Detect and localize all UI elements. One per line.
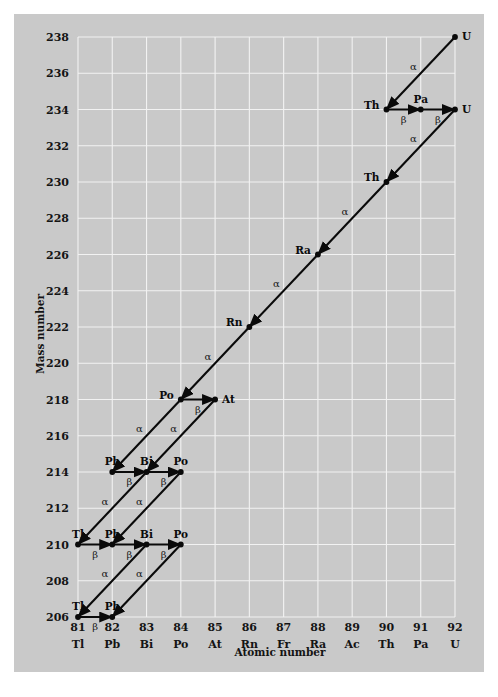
nuclide-node xyxy=(178,397,184,403)
x-axis-title: Atomic number xyxy=(234,646,326,658)
y-tick-label: 234 xyxy=(46,104,69,117)
x-tick-label: 82 xyxy=(105,621,120,634)
nuclide-node xyxy=(144,469,150,475)
x-element-symbol: Ac xyxy=(344,638,361,651)
nuclide-label: Pb xyxy=(105,528,120,540)
decay-label-beta: β xyxy=(127,476,133,487)
nuclide-label: U xyxy=(462,103,471,115)
y-axis-tick-labels: 2062082102122142162182202222242262282302… xyxy=(46,31,69,624)
nuclide-node xyxy=(452,34,458,40)
y-tick-label: 228 xyxy=(46,212,69,225)
decay-label-alpha: α xyxy=(342,206,349,217)
nuclide-label: Rn xyxy=(226,316,243,328)
nuclide-node xyxy=(75,542,81,548)
y-tick-label: 238 xyxy=(46,31,69,44)
nuclide-node xyxy=(246,324,252,330)
x-element-symbol: Pb xyxy=(104,638,120,651)
x-element-symbol: Pa xyxy=(413,638,428,651)
nuclide-node xyxy=(144,542,150,548)
nuclide-node xyxy=(384,107,390,113)
decay-label-alpha: α xyxy=(136,568,143,579)
nuclide-label: Tl xyxy=(72,600,84,612)
nuclide-label: Po xyxy=(174,528,189,540)
x-tick-label: 91 xyxy=(413,621,428,634)
x-tick-label: 83 xyxy=(139,621,154,634)
nuclide-label: Th xyxy=(364,99,380,111)
gridlines xyxy=(78,37,455,617)
nuclide-node xyxy=(315,252,321,258)
nuclide-node xyxy=(75,614,81,620)
nuclide-label: Pa xyxy=(414,93,429,105)
decay-label-alpha: α xyxy=(136,496,143,507)
nuclide-label: Po xyxy=(174,455,189,467)
nuclide-label: At xyxy=(221,393,235,405)
decay-label-beta: β xyxy=(161,476,167,487)
decay-label-beta: β xyxy=(161,549,167,560)
nuclide-node xyxy=(212,397,218,403)
decay-label-beta: β xyxy=(435,114,441,125)
nuclide-label: U xyxy=(462,30,471,42)
y-tick-label: 224 xyxy=(46,285,69,298)
x-tick-label: 92 xyxy=(447,621,462,634)
decay-series-chart: 2062082102122142162182202222242262282302… xyxy=(14,14,484,672)
decay-label-alpha: α xyxy=(204,351,211,362)
x-tick-label: 90 xyxy=(379,621,395,634)
x-tick-label: 85 xyxy=(207,621,222,634)
y-tick-label: 230 xyxy=(46,176,69,189)
x-tick-label: 81 xyxy=(70,621,85,634)
decay-label-beta: β xyxy=(92,621,98,632)
y-tick-label: 216 xyxy=(46,430,69,443)
x-element-symbol: At xyxy=(207,638,222,651)
decay-label-beta: β xyxy=(92,549,98,560)
x-tick-label: 86 xyxy=(242,621,258,634)
nuclide-label: Tl xyxy=(72,528,84,540)
nuclide-label: Pb xyxy=(105,455,120,467)
decay-label-alpha: α xyxy=(410,61,417,72)
nuclide-node xyxy=(178,469,184,475)
y-tick-label: 222 xyxy=(46,321,69,334)
x-axis-tick-labels: 818283848586878889909192 xyxy=(70,621,462,634)
nuclide-label: Pb xyxy=(105,600,120,612)
y-tick-label: 218 xyxy=(46,394,69,407)
decay-label-alpha: α xyxy=(136,423,143,434)
nuclide-node xyxy=(178,542,184,548)
decay-label-beta: β xyxy=(401,114,407,125)
nuclide-node xyxy=(384,179,390,185)
nuclide-node xyxy=(452,107,458,113)
y-tick-label: 236 xyxy=(46,67,69,80)
decay-label-alpha: α xyxy=(170,423,177,434)
y-tick-label: 212 xyxy=(46,502,69,515)
x-element-symbol: Bi xyxy=(140,638,153,651)
nuclide-node xyxy=(109,614,115,620)
x-tick-label: 87 xyxy=(276,621,291,634)
nuclide-label: Po xyxy=(159,389,174,401)
decay-label-alpha: α xyxy=(102,496,109,507)
decay-label-alpha: α xyxy=(273,278,280,289)
y-tick-label: 210 xyxy=(46,539,69,552)
nuclide-node xyxy=(109,469,115,475)
y-tick-label: 206 xyxy=(46,611,69,624)
y-axis-title: Mass number xyxy=(34,294,46,374)
y-tick-label: 232 xyxy=(46,140,69,153)
y-tick-label: 214 xyxy=(46,466,69,479)
nuclide-label: Ra xyxy=(295,244,311,256)
x-tick-label: 84 xyxy=(173,621,189,634)
nuclide-label: Bi xyxy=(140,528,153,540)
decay-label-alpha: α xyxy=(410,133,417,144)
decay-label-beta: β xyxy=(195,404,201,415)
y-tick-label: 208 xyxy=(46,575,69,588)
x-element-symbol: U xyxy=(450,638,460,651)
y-tick-label: 220 xyxy=(46,357,69,370)
nuclide-label: Th xyxy=(364,171,380,183)
nuclide-node xyxy=(418,107,424,113)
y-tick-label: 226 xyxy=(46,249,69,262)
decay-label-beta: β xyxy=(127,549,133,560)
nuclide-label: Bi xyxy=(140,455,153,467)
decay-series-figure: 2062082102122142162182202222242262282302… xyxy=(14,14,484,672)
x-element-symbol: Th xyxy=(378,638,394,651)
x-element-symbol: Po xyxy=(173,638,188,651)
nuclide-node xyxy=(109,542,115,548)
decay-label-alpha: α xyxy=(102,568,109,579)
x-tick-label: 89 xyxy=(345,621,360,634)
x-tick-label: 88 xyxy=(310,621,326,634)
